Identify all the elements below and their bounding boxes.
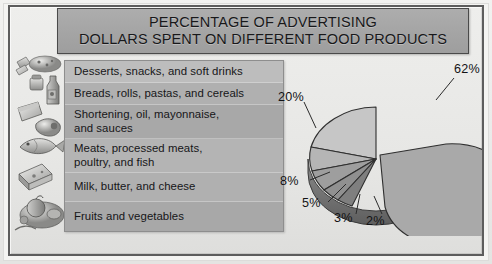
fish-illustration: [20, 139, 65, 154]
legend-item-breads: Breads, rolls, pastas, and cereals: [65, 83, 283, 105]
pie-label-5: 5%: [302, 196, 321, 210]
legend-item-label: Desserts, snacks, and soft drinks: [74, 65, 243, 78]
legend-item-label: Fruits and vegetables: [74, 210, 184, 223]
bread-bottle-illustration: [30, 75, 59, 104]
cookies-snacks-illustration: [16, 56, 61, 75]
figure-title-box: PERCENTAGE OF ADVERTISING DOLLARS SPENT …: [57, 8, 469, 54]
pie-label-2: 2%: [366, 214, 385, 228]
pie-label-62: 62%: [454, 62, 480, 76]
pie-label-20: 20%: [278, 90, 304, 104]
legend-item-label: Milk, butter, and cheese: [74, 180, 196, 193]
legend-item-meats: Meats, processed meats, poultry, and fis…: [65, 139, 283, 173]
legend-item-shortening: Shortening, oil, mayonnaise, and sauces: [65, 105, 283, 139]
legend-item-label: Shortening, oil, mayonnaise, and sauces: [74, 108, 219, 134]
legend-item-fruits: Fruits and vegetables: [65, 202, 283, 231]
legend-item-label: Meats, processed meats, poultry, and fis…: [74, 142, 202, 168]
food-illustration-strip: [12, 52, 70, 238]
pie-slice-62: [380, 144, 482, 236]
legend-item-desserts: Desserts, snacks, and soft drinks: [65, 61, 283, 83]
figure-root: PERCENTAGE OF ADVERTISING DOLLARS SPENT …: [0, 0, 492, 264]
legend-item-label: Breads, rolls, pastas, and cereals: [74, 87, 244, 100]
cheese-illustration: [19, 164, 52, 190]
legend-panel: Desserts, snacks, and soft drinks Breads…: [64, 60, 284, 232]
pie-chart: 62% 20% 8% 5% 3% 2%: [286, 56, 482, 236]
legend-item-milk: Milk, butter, and cheese: [65, 173, 283, 202]
pie-label-3: 3%: [334, 211, 353, 225]
fruits-vegetables-illustration: [15, 196, 64, 230]
meat-steak-illustration: [18, 102, 60, 136]
pie-label-8: 8%: [280, 174, 299, 188]
figure-title: PERCENTAGE OF ADVERTISING DOLLARS SPENT …: [79, 14, 447, 49]
